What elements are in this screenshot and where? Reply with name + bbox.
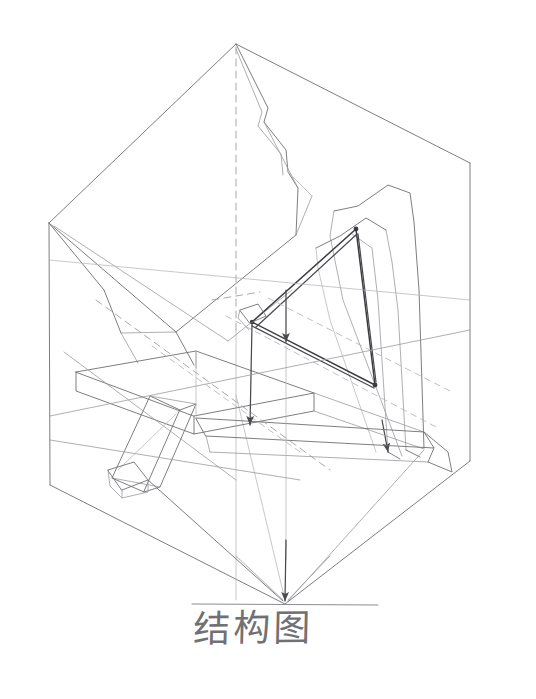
lower-axis-faint bbox=[236, 395, 285, 600]
structural-sketch bbox=[0, 0, 536, 699]
roof-plane bbox=[49, 44, 312, 363]
ground-drop-arrow bbox=[285, 540, 286, 601]
center-truss-triangle bbox=[238, 227, 377, 388]
post-foot-right bbox=[406, 450, 420, 457]
tapered-post-pair bbox=[316, 185, 424, 459]
truss-vertex-top bbox=[354, 227, 359, 232]
diagonal-strut bbox=[112, 396, 196, 492]
drawing-canvas bbox=[0, 0, 536, 699]
truss-vertex-right bbox=[373, 383, 378, 388]
post-foot-left bbox=[388, 452, 400, 459]
left-column bbox=[121, 332, 194, 365]
base-foot-block bbox=[108, 462, 148, 490]
ground-line bbox=[192, 604, 378, 605]
